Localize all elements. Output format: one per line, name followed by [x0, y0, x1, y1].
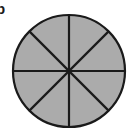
fraction-circle-figure: b [0, 0, 137, 139]
sector-divider-lines [13, 15, 125, 127]
pie-circle-diagram [0, 0, 137, 139]
